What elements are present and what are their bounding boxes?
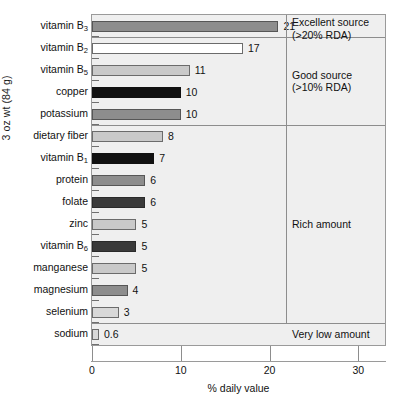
category-tick [92,58,99,59]
group-annotation: Rich amount [292,218,351,231]
group-annotation: Good source (>10% RDA) [292,69,352,94]
category-tick [92,234,99,235]
category-label: vitamin B1 [16,152,88,164]
group-divider [92,125,385,126]
bar-value-label: 17 [248,43,260,54]
bar [92,131,163,142]
bar-value-label: 5 [141,241,147,252]
category-label-column: vitamin B3vitamin B2vitamin B5copperpota… [16,14,88,346]
category-tick [92,300,99,301]
category-tick [92,190,99,191]
category-label: manganese [16,262,88,273]
bar [92,43,243,54]
category-label: sodium [16,328,88,339]
category-tick [92,80,99,81]
bar-value-label: 7 [159,153,165,164]
category-label: vitamin B6 [16,240,88,252]
group-annotation: Excellent source (>20% RDA) [292,16,369,41]
annotation-column-divider [286,125,287,323]
bar-value-label: 11 [195,65,206,76]
category-label: protein [16,174,88,185]
category-tick [92,278,99,279]
x-axis-tick [358,346,359,361]
bar [92,197,145,208]
category-label: vitamin B5 [16,64,88,76]
annotation-column-divider [286,15,287,37]
bar-value-label: 6 [150,175,156,186]
x-axis-tick-label: 10 [175,364,187,376]
bar-value-label: 5 [141,263,147,274]
plot-area: 21171110108766555430.6Excellent source (… [91,14,386,346]
x-axis-tick-label: 30 [353,364,365,376]
bar [92,329,99,340]
bar-value-label: 10 [186,87,198,98]
nutrition-bar-chart: 3 oz wt (84 g) vitamin B3vitamin B2vitam… [0,0,399,406]
bar-value-label: 10 [186,109,198,120]
group-divider [92,323,385,324]
category-label: vitamin B3 [16,20,88,32]
bar [92,263,136,274]
x-axis-tick [181,346,182,361]
bar-value-label: 5 [141,219,147,230]
bar [92,153,154,164]
bar [92,307,119,318]
x-axis-title: % daily value [91,382,386,394]
x-axis-tick-label: 20 [264,364,276,376]
bar [92,21,278,32]
category-tick [92,102,99,103]
y-axis-title: 3 oz wt (84 g) [0,48,14,168]
category-label: dietary fiber [16,130,88,141]
bar-value-label: 4 [133,285,139,296]
bar [92,87,181,98]
category-label: selenium [16,306,88,317]
category-label: copper [16,86,88,97]
group-annotation: Very low amount [292,328,370,341]
x-axis-tick [270,346,271,361]
x-axis-tick [92,346,93,361]
bar-value-label: 6 [150,197,156,208]
category-label: folate [16,196,88,207]
annotation-column-divider [286,37,287,125]
category-label: zinc [16,218,88,229]
category-tick [92,212,99,213]
category-label: magnesium [16,284,88,295]
category-label: potassium [16,108,88,119]
x-axis-line [91,361,386,362]
bar [92,241,136,252]
bar-value-label: 8 [168,131,174,142]
category-tick [92,256,99,257]
category-label: vitamin B2 [16,42,88,54]
bar [92,219,136,230]
bar [92,109,181,120]
bar-value-label: 0.6 [104,329,119,340]
bar-value-label: 3 [124,307,130,318]
category-tick [92,168,99,169]
x-axis-tick-label: 0 [89,364,95,376]
category-tick [92,344,99,345]
plot-inner: 21171110108766555430.6Excellent source (… [92,15,385,345]
category-tick [92,146,99,147]
bar [92,65,190,76]
bar [92,285,128,296]
bar [92,175,145,186]
